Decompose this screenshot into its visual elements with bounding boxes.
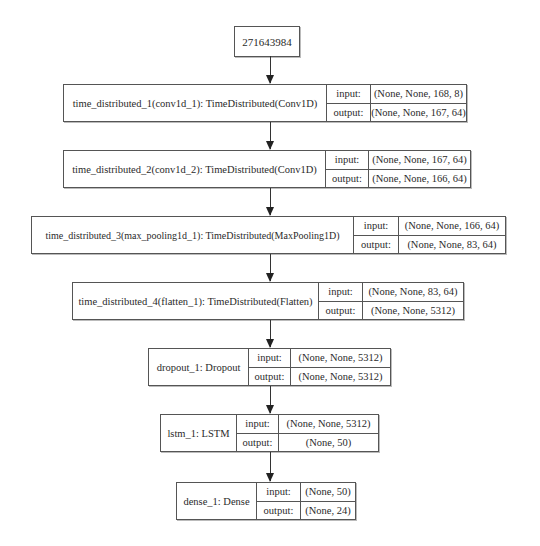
arrow-layer-5-to-layer-6 [270, 386, 271, 413]
io-labels: input: output: [327, 85, 371, 121]
output-label: output: [249, 368, 290, 386]
input-shape: (None, None, 5312) [291, 349, 390, 368]
input-shape: (None, None, 167, 64) [369, 151, 470, 170]
input-label: input: [249, 349, 290, 368]
input-shape: (None, None, 168, 8) [371, 85, 466, 104]
output-shape: (None, None, 5312) [363, 302, 463, 320]
output-label: output: [326, 170, 368, 188]
layer-node-dropout-1: dropout_1: Dropout input: output: (None,… [148, 348, 391, 386]
io-values: (None, None, 166, 64) (None, None, 83, 6… [399, 217, 505, 253]
input-label: input: [237, 415, 278, 434]
io-values: (None, None, 83, 64) (None, None, 5312) [363, 283, 463, 319]
layer-node-lstm-1: lstm_1: LSTM input: output: (None, None,… [160, 414, 379, 452]
arrow-layer-1-to-layer-2 [270, 122, 271, 149]
output-shape: (None, None, 167, 64) [371, 104, 466, 122]
output-label: output: [319, 302, 362, 320]
layer-node-time-distributed-2: time_distributed_2(conv1d_2): TimeDistri… [63, 150, 471, 188]
input-node-label: 271643984 [242, 36, 292, 48]
layer-name: time_distributed_2(conv1d_2): TimeDistri… [64, 151, 326, 187]
io-values: (None, None, 168, 8) (None, None, 167, 6… [371, 85, 466, 121]
input-shape: (None, None, 166, 64) [399, 217, 505, 236]
input-label: input: [354, 217, 398, 236]
output-shape: (None, None, 83, 64) [399, 236, 505, 254]
io-labels: input: output: [326, 151, 369, 187]
layer-name: dense_1: Dense [177, 483, 257, 519]
output-shape: (None, None, 5312) [291, 368, 390, 386]
output-label: output: [327, 104, 370, 122]
arrow-layer-4-to-layer-5 [270, 320, 271, 347]
input-shape: (None, None, 5312) [279, 415, 378, 434]
arrow-layer-3-to-layer-4 [270, 254, 271, 281]
input-label: input: [327, 85, 370, 104]
io-labels: input: output: [249, 349, 291, 385]
output-shape: (None, None, 166, 64) [369, 170, 470, 188]
arrow-input-to-layer-1 [270, 56, 271, 83]
input-label: input: [257, 483, 300, 502]
layer-name: time_distributed_1(conv1d_1): TimeDistri… [64, 85, 327, 121]
io-labels: input: output: [319, 283, 363, 319]
input-shape: (None, 50) [301, 483, 355, 502]
io-values: (None, None, 5312) (None, 50) [279, 415, 378, 451]
input-node: 271643984 [234, 26, 300, 57]
output-label: output: [237, 434, 278, 452]
layer-name: dropout_1: Dropout [149, 349, 249, 385]
io-values: (None, None, 167, 64) (None, None, 166, … [369, 151, 470, 187]
output-label: output: [257, 502, 300, 520]
layer-node-time-distributed-4: time_distributed_4(flatten_1): TimeDistr… [72, 282, 464, 320]
output-shape: (None, 50) [279, 434, 378, 452]
layer-node-time-distributed-1: time_distributed_1(conv1d_1): TimeDistri… [63, 84, 467, 122]
input-shape: (None, None, 83, 64) [363, 283, 463, 302]
arrow-layer-2-to-layer-3 [270, 188, 271, 215]
arrow-layer-6-to-layer-7 [270, 452, 271, 481]
input-label: input: [319, 283, 362, 302]
io-values: (None, None, 5312) (None, None, 5312) [291, 349, 390, 385]
layer-name: time_distributed_3(max_pooling1d_1): Tim… [32, 217, 354, 253]
io-labels: input: output: [354, 217, 399, 253]
clipped-page-header [0, 0, 540, 5]
layer-name: lstm_1: LSTM [161, 415, 237, 451]
io-labels: input: output: [237, 415, 279, 451]
layer-node-dense-1: dense_1: Dense input: output: (None, 50)… [176, 482, 356, 520]
io-labels: input: output: [257, 483, 301, 519]
output-shape: (None, 24) [301, 502, 355, 520]
layer-name: time_distributed_4(flatten_1): TimeDistr… [73, 283, 319, 319]
layer-node-time-distributed-3: time_distributed_3(max_pooling1d_1): Tim… [31, 216, 506, 254]
io-values: (None, 50) (None, 24) [301, 483, 355, 519]
input-label: input: [326, 151, 368, 170]
output-label: output: [354, 236, 398, 254]
